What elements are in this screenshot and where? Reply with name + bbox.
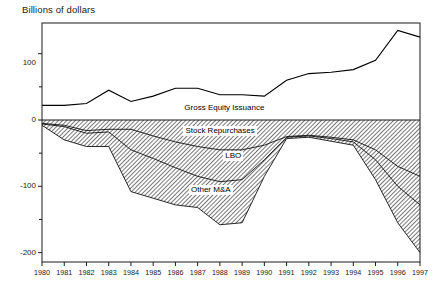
- series-label-lbo: LBO: [223, 151, 243, 161]
- series-label-gross-equity-issuance: Gross Equity Issuance: [182, 103, 266, 113]
- ytick-label--200: -200: [2, 248, 36, 257]
- series-line-gross-equity-issuance: [42, 30, 420, 105]
- xtick-label-1997: 1997: [406, 268, 434, 277]
- series-label-other-ma: Other M&A: [189, 185, 233, 195]
- chart-axis-title: Billions of dollars: [22, 4, 95, 15]
- ytick-label-0: 0: [2, 115, 36, 124]
- series-label-stock-repurchases: Stock Repurchases: [183, 126, 256, 136]
- ytick-label--100: -100: [2, 181, 36, 190]
- ytick-label-100: 100: [2, 58, 36, 67]
- chart-plot-area: [0, 0, 443, 290]
- chart-figure: Billions of dollars 100 0 -100 -200 Gros…: [0, 0, 443, 290]
